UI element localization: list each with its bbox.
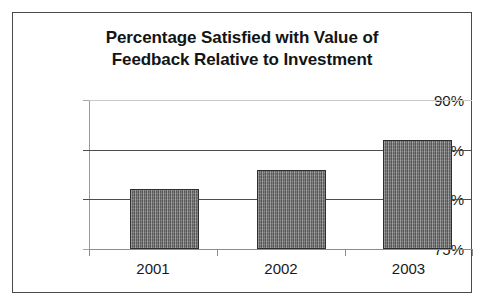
- gridline-90: [89, 100, 472, 101]
- bar-2002[interactable]: [257, 170, 326, 249]
- x-tick-mark-2: [345, 250, 346, 256]
- x-tick-mark-1: [217, 250, 218, 256]
- x-axis-line: [89, 249, 473, 250]
- plot-wrapper: 90% 85% 80% 75% 2001 2002 2003: [13, 13, 471, 292]
- bar-2001[interactable]: [130, 189, 199, 249]
- x-tick-mark-end: [472, 250, 473, 256]
- x-axis-label-2003: 2003: [345, 260, 472, 277]
- chart-frame: Percentage Satisfied with Value of Feedb…: [12, 12, 472, 293]
- x-axis-label-2002: 2002: [217, 260, 345, 277]
- x-axis-label-2001: 2001: [89, 260, 217, 277]
- plot-area: [89, 100, 472, 249]
- bar-2003[interactable]: [383, 140, 452, 249]
- x-tick-mark-start: [89, 250, 90, 256]
